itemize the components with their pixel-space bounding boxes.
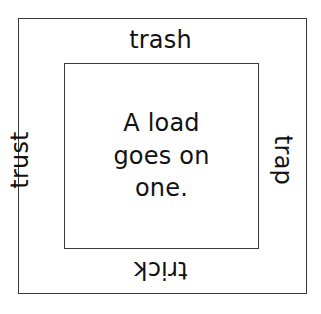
edge-word-top: trash [0,28,321,52]
center-sentence: A load goes on one. [64,63,259,249]
edge-word-left: trust [8,100,32,220]
center-sentence-line-2: goes on [113,140,209,173]
center-sentence-line-3: one. [135,172,188,205]
edge-word-bottom: trick [0,258,321,282]
center-sentence-line-1: A load [123,107,200,140]
word-box-figure: trash trust trap trick A load goes on on… [0,0,321,314]
edge-word-right: trap [271,100,295,220]
